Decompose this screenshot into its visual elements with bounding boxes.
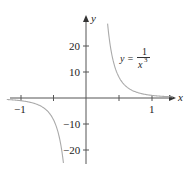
chart: x y −1 1 20 10 −10 −20 y = 1 x 3 bbox=[0, 0, 191, 173]
equation-annotation: y = 1 x 3 bbox=[119, 46, 159, 70]
x-axis-label: x bbox=[178, 92, 183, 103]
equation-denominator: x bbox=[138, 59, 142, 70]
y-tick-label-10: 10 bbox=[69, 67, 80, 78]
y-tick-label-neg20: −20 bbox=[63, 145, 80, 156]
x-axis-arrow-icon bbox=[169, 95, 176, 101]
y-tick-label-neg10: −10 bbox=[63, 119, 80, 130]
x-tick-label-neg1: −1 bbox=[14, 104, 26, 115]
plot-area bbox=[0, 0, 191, 173]
equation-lhs: y = bbox=[120, 53, 134, 64]
y-axis-arrow-icon bbox=[83, 15, 89, 22]
y-tick-label-20: 20 bbox=[69, 41, 80, 52]
equation-exponent: 3 bbox=[144, 56, 148, 64]
y-axis-label: y bbox=[91, 13, 96, 24]
x-tick-label-1: 1 bbox=[149, 104, 155, 115]
